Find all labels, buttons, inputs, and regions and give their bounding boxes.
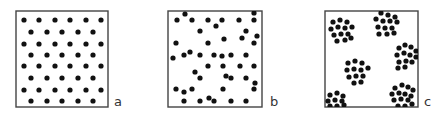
- dot: [59, 75, 64, 80]
- dot: [223, 73, 228, 78]
- dot: [351, 66, 356, 71]
- dot: [353, 73, 358, 78]
- dot: [211, 52, 216, 57]
- dot: [90, 75, 95, 80]
- dot: [67, 41, 72, 46]
- dot: [387, 18, 392, 23]
- dot: [192, 69, 197, 74]
- dot: [251, 10, 256, 15]
- dot: [189, 86, 194, 91]
- dot: [28, 29, 33, 34]
- dot: [403, 58, 408, 63]
- dot: [328, 26, 333, 31]
- dot: [395, 103, 400, 108]
- dot: [401, 50, 406, 55]
- dot: [181, 89, 186, 94]
- dot-distribution-figure: [0, 0, 444, 119]
- dot: [83, 41, 88, 46]
- dot: [67, 17, 72, 22]
- panel-c-clustered: [325, 10, 419, 108]
- dot: [59, 98, 64, 103]
- dot: [205, 17, 210, 22]
- dot: [237, 63, 242, 68]
- dot: [36, 41, 41, 46]
- dot: [205, 63, 210, 68]
- dot: [396, 90, 401, 95]
- dot: [338, 31, 343, 36]
- dot: [402, 64, 407, 69]
- dot: [396, 45, 401, 50]
- panel-label-a: a: [114, 95, 122, 108]
- dot: [407, 52, 412, 57]
- panel-b-random: [168, 10, 262, 107]
- dot: [228, 98, 233, 103]
- dot: [402, 42, 407, 47]
- dot: [251, 86, 256, 91]
- dot: [228, 52, 233, 57]
- dot: [205, 40, 210, 45]
- dot: [378, 10, 383, 15]
- dot: [351, 80, 356, 85]
- dot: [36, 63, 41, 68]
- dot: [28, 98, 33, 103]
- dot: [392, 85, 397, 90]
- dot: [52, 87, 57, 92]
- dot: [358, 67, 363, 72]
- dot: [67, 87, 72, 92]
- dot: [252, 80, 257, 85]
- dot: [391, 97, 396, 102]
- dot: [409, 101, 414, 106]
- dot: [83, 17, 88, 22]
- dot: [98, 87, 103, 92]
- dot: [75, 52, 80, 57]
- dot: [90, 29, 95, 34]
- dot: [228, 75, 233, 80]
- dot: [36, 17, 41, 22]
- dot: [413, 54, 418, 59]
- dot: [352, 58, 357, 63]
- dot: [344, 19, 349, 24]
- dot: [219, 53, 224, 58]
- dot: [385, 12, 390, 17]
- dot: [342, 25, 347, 30]
- dot: [391, 30, 396, 35]
- dot: [346, 74, 351, 79]
- dot: [413, 48, 418, 53]
- dot: [389, 25, 394, 30]
- dot: [330, 19, 335, 24]
- dot: [405, 97, 410, 102]
- dot: [44, 75, 49, 80]
- dot: [408, 44, 413, 49]
- dot: [380, 18, 385, 23]
- dot: [334, 103, 339, 108]
- dot: [239, 35, 244, 40]
- dot: [219, 17, 224, 22]
- dot: [394, 52, 399, 57]
- dot: [402, 103, 407, 108]
- dot: [44, 29, 49, 34]
- dot: [325, 98, 330, 103]
- dot: [409, 59, 414, 64]
- dot: [389, 91, 394, 96]
- dot: [75, 98, 80, 103]
- dot: [334, 90, 339, 95]
- dot: [44, 52, 49, 57]
- dot: [173, 86, 178, 91]
- figure: a b c: [0, 0, 444, 119]
- dot: [173, 40, 178, 45]
- dot: [251, 63, 256, 68]
- dot: [52, 63, 57, 68]
- dot: [52, 17, 57, 22]
- dot: [197, 98, 202, 103]
- dot: [90, 98, 95, 103]
- dot: [197, 52, 202, 57]
- panel-a-uniform: [16, 11, 108, 107]
- dot: [360, 73, 365, 78]
- dot: [83, 63, 88, 68]
- panel-label-c: c: [424, 95, 431, 108]
- dot: [67, 63, 72, 68]
- dot: [75, 29, 80, 34]
- dot: [254, 33, 259, 38]
- dot: [220, 63, 225, 68]
- dot: [358, 79, 363, 84]
